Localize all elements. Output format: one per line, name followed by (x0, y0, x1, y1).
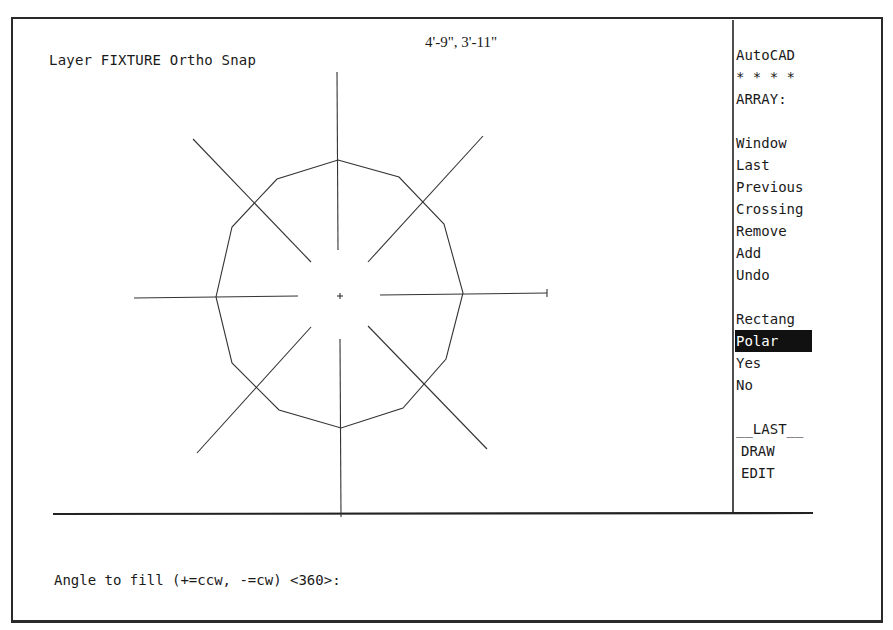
spoke-east (380, 293, 547, 295)
spoke-south (340, 339, 341, 517)
menu-item-add[interactable]: Add (735, 242, 815, 264)
menu-item-remove[interactable]: Remove (735, 220, 815, 242)
spoke-northwest (193, 139, 311, 262)
menu-item-previous[interactable]: Previous (735, 176, 815, 198)
menu-item-undo[interactable]: Undo (735, 264, 815, 286)
center-cross-icon (337, 293, 343, 299)
menu-item-window[interactable]: Window (735, 132, 815, 154)
menu-item-crossing[interactable]: Crossing (735, 198, 815, 220)
screen-menu: AutoCAD * * * * ARRAY: Window Last Previ… (735, 44, 815, 484)
menu-item-rectang[interactable]: Rectang (735, 308, 815, 330)
spoke-north (337, 72, 338, 250)
menu-item-no[interactable]: No (735, 374, 815, 396)
menu-nav-last[interactable]: __LAST__ (735, 418, 815, 440)
menu-stars[interactable]: * * * * (735, 66, 815, 88)
command-line-1: Angle to fill (+=ccw, -=cw) <360>: (54, 570, 374, 591)
menu-nav-draw[interactable]: DRAW (735, 440, 815, 462)
spoke-southwest (197, 327, 311, 453)
command-divider (53, 513, 813, 514)
menu-item-polar[interactable]: Polar (735, 330, 815, 352)
command-area[interactable]: Angle to fill (+=ccw, -=cw) <360>: Rotat… (54, 528, 374, 630)
menu-item-polar-label: Polar (735, 330, 812, 352)
menu-item-yes[interactable]: Yes (735, 352, 815, 374)
spoke-northeast (368, 136, 483, 262)
coordinate-display: 4'-9", 3'-11" (425, 34, 497, 51)
menu-item-last[interactable]: Last (735, 154, 815, 176)
menu-title[interactable]: AutoCAD (735, 44, 815, 66)
menu-nav-edit[interactable]: EDIT (735, 462, 815, 484)
polar-array-drawing (134, 72, 547, 517)
spoke-southeast (368, 326, 487, 449)
layer-status: Layer FIXTURE Ortho Snap (49, 52, 256, 68)
menu-command-array[interactable]: ARRAY: (735, 88, 815, 110)
